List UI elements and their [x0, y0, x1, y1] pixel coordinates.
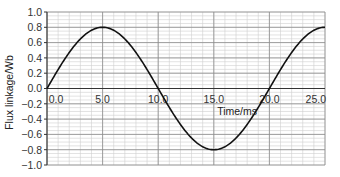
x-axis-ticks: 0.05.010.015.020.025.0	[49, 93, 326, 105]
x-tick-label: 5.0	[95, 93, 110, 105]
y-tick-label: −0.8	[21, 144, 42, 156]
x-tick-label: 15.0	[204, 93, 225, 105]
y-tick-label: 0.4	[27, 52, 42, 64]
y-tick-label: 1.0	[27, 6, 42, 18]
y-tick-label: 0.0	[27, 82, 42, 94]
y-tick-label: −0.2	[21, 98, 42, 110]
y-tick-label: 0.6	[27, 36, 42, 48]
y-tick-label: −1.0	[21, 159, 42, 171]
x-axis-title: Time/ms	[217, 105, 257, 117]
y-tick-label: −0.4	[21, 113, 42, 125]
y-axis-title: Flux linkage/Wb	[3, 55, 15, 130]
y-tick-label: −0.6	[21, 128, 42, 140]
y-axis-ticks: 1.00.80.60.40.20.0−0.2−0.4−0.6−0.8−1.0	[21, 6, 47, 171]
x-tick-label: 0.0	[49, 93, 64, 105]
y-tick-label: 0.8	[27, 21, 42, 33]
y-tick-label: 0.2	[27, 67, 42, 79]
x-tick-label: 10.0	[148, 93, 169, 105]
x-tick-label: 20.0	[259, 93, 280, 105]
x-tick-label: 25.0	[306, 93, 327, 105]
flux-linkage-chart: 1.00.80.60.40.20.0−0.2−0.4−0.6−0.8−1.0 0…	[0, 0, 340, 177]
